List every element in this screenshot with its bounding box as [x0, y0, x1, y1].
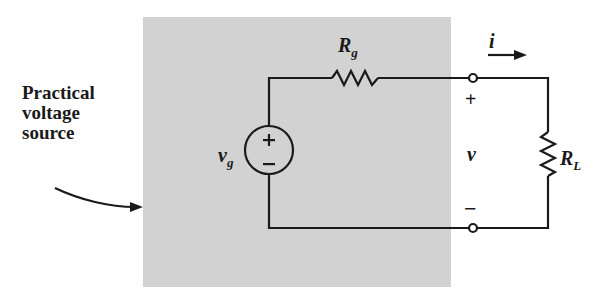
label-terminal-voltage: v: [467, 143, 476, 166]
wire-source-top: [269, 78, 332, 126]
caption-line-2: voltage: [22, 103, 95, 123]
caption-practical-voltage-source: Practical voltage source: [22, 83, 95, 143]
label-rg-main: R: [338, 34, 351, 56]
label-plus-terminal: +: [465, 88, 476, 111]
label-current: i: [489, 30, 495, 53]
resistor-rl-icon: [541, 132, 555, 176]
wire-top-right: [477, 78, 548, 132]
label-rl: RL: [560, 147, 581, 170]
circuit-diagram: [0, 0, 605, 290]
caption-line-3: source: [22, 123, 95, 143]
caption-line-1: Practical: [22, 83, 95, 103]
wire-bottom: [269, 174, 469, 228]
caption-pointer-arrow-icon: [55, 188, 135, 207]
label-rl-main: R: [560, 147, 573, 169]
label-rg-sub: g: [351, 45, 358, 60]
voltage-source-icon: [245, 126, 293, 174]
wire-bottom-right: [477, 176, 548, 228]
terminal-positive-icon: [469, 74, 477, 82]
label-rg: Rg: [338, 34, 358, 57]
label-vg-main: v: [218, 144, 227, 166]
resistor-rg-icon: [332, 71, 378, 85]
terminal-negative-icon: [469, 224, 477, 232]
label-minus-terminal: −: [464, 196, 477, 222]
label-rl-sub: L: [573, 158, 581, 173]
label-vg-sub: g: [227, 155, 234, 170]
label-vg: vg: [218, 144, 233, 167]
